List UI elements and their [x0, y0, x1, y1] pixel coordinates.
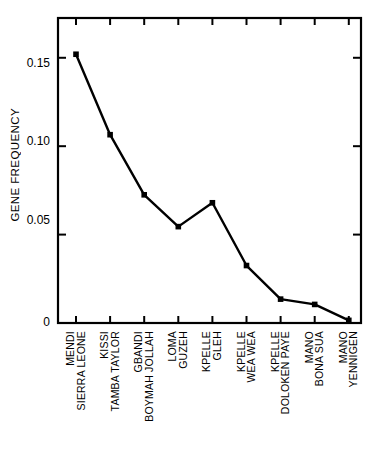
x-axis-label-line2: DOLOKEN PAYE: [280, 331, 291, 414]
x-axis-label-group: GBANDIBOYMAH JOLLAH: [133, 331, 154, 459]
right-axis-ticks: [353, 58, 361, 235]
x-axis-label-line2: WEA WEA: [246, 331, 257, 383]
left-axis-ticks: [58, 58, 66, 235]
plot-area: [0, 0, 383, 340]
x-axis-label-group: KPELLEDOLOKEN PAYE: [270, 331, 291, 459]
x-axis-label-group: KPELLEWEA WEA: [236, 331, 257, 459]
x-axis-label-group: LOMAGUZEH: [167, 331, 188, 459]
x-axis-label-group: KPELLEGLEH: [201, 331, 222, 459]
axis-frame: [58, 18, 361, 323]
x-axis-label-group: MENDISIERRA LEONE: [65, 331, 86, 459]
data-point-markers: [73, 51, 351, 323]
x-axis-label-group: KISSITAMBA TAYLOR: [99, 331, 120, 459]
x-axis-label-line2: SIERRA LEONE: [76, 331, 87, 410]
x-axis-label-group: MANOBONA SUA: [304, 331, 325, 459]
x-axis-label-line1: MENDI: [65, 331, 76, 366]
data-line: [76, 54, 349, 320]
x-axis-label-line2: TAMBA TAYLOR: [110, 331, 121, 411]
x-axis-label-group: MANOYENNIGEN: [338, 331, 359, 459]
x-axis-label-line2: YENNIGEN: [348, 331, 359, 387]
x-axis-label-line2: GUZEH: [178, 331, 189, 369]
chart-figure: GENE FREQUENCY 0.15 0.10 0.05 0 MENDISIE…: [0, 0, 383, 461]
x-axis-label-line2: BOYMAH JOLLAH: [144, 331, 155, 422]
x-axis-label-line2: BONA SUA: [314, 331, 325, 386]
x-axis-label-line2: GLEH: [212, 331, 223, 360]
